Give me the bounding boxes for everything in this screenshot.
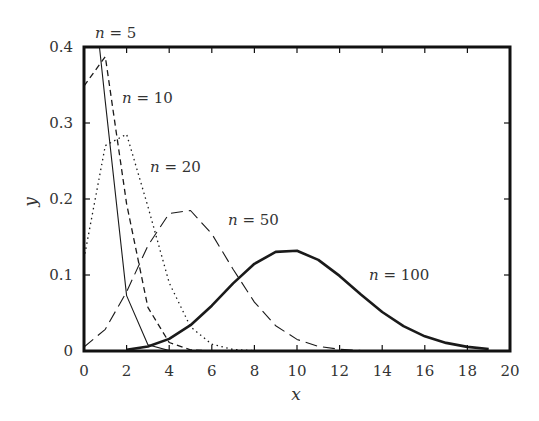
curve-label-n10: n = 10 — [122, 89, 173, 107]
y-tick-label: 0.3 — [49, 114, 73, 132]
x-tick-label: 10 — [287, 362, 306, 380]
series-line-n100 — [127, 251, 489, 350]
x-tick-label: 16 — [415, 362, 434, 380]
curve-label-n5: n = 5 — [95, 24, 136, 42]
x-tick-label: 6 — [207, 362, 217, 380]
ticks-layer: 0246810121416182000.10.20.30.4 — [49, 38, 519, 380]
series-layer — [84, 0, 489, 351]
y-tick-label: 0 — [63, 342, 73, 360]
x-tick-label: 18 — [458, 362, 477, 380]
series-line-n50 — [84, 211, 382, 351]
x-axis-label: x — [291, 384, 301, 404]
binomial-distribution-chart: 0246810121416182000.10.20.30.4 n = 5n = … — [0, 0, 539, 421]
y-tick-label: 0.2 — [49, 190, 73, 208]
curve-label-n100: n = 100 — [369, 266, 429, 284]
x-tick-label: 4 — [164, 362, 174, 380]
x-tick-label: 2 — [122, 362, 132, 380]
y-tick-label: 0.1 — [49, 266, 73, 284]
y-axis-label: y — [20, 197, 40, 208]
x-tick-label: 12 — [330, 362, 349, 380]
x-tick-label: 0 — [79, 362, 89, 380]
x-tick-label: 14 — [373, 362, 392, 380]
x-tick-label: 8 — [250, 362, 260, 380]
curve-label-n20: n = 20 — [150, 158, 201, 176]
x-tick-label: 20 — [500, 362, 519, 380]
curve-labels: n = 5n = 10n = 20n = 50n = 100 — [95, 24, 429, 284]
y-tick-label: 0.4 — [49, 38, 73, 56]
curve-label-n50: n = 50 — [228, 211, 279, 229]
